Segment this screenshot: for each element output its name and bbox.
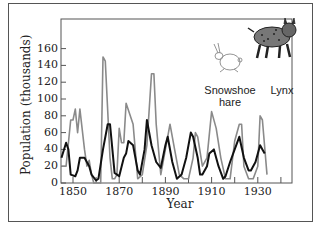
y-tick-label: 60	[32, 126, 58, 139]
y-tick-label: 0	[32, 176, 58, 189]
y-tick-label: 160	[32, 42, 58, 55]
x-axis-label: Year	[160, 197, 200, 211]
y-tick-label: 40	[32, 142, 58, 155]
lynx-icon	[248, 18, 296, 58]
x-tick-label: 1890	[148, 185, 182, 198]
x-tick-label: 1910	[195, 185, 229, 198]
x-tick-label: 1850	[56, 185, 90, 198]
legend-hare-line2: hare	[200, 96, 260, 108]
legend-hare-line1: Snowshoe	[200, 84, 260, 96]
hare-icon	[214, 43, 242, 72]
y-tick-label: 80	[32, 109, 58, 122]
y-tick-label: 120	[32, 75, 58, 88]
hare-series-line	[62, 57, 268, 183]
y-axis-label: Population (thousands)	[19, 55, 33, 175]
x-tick-label: 1870	[102, 185, 136, 198]
y-tick-label: 100	[32, 92, 58, 105]
y-axis-ticks	[61, 49, 66, 183]
legend-lynx: Lynx	[262, 84, 302, 96]
y-tick-label: 140	[32, 58, 58, 71]
lynx-series-line	[62, 120, 265, 181]
x-tick-label: 1930	[241, 185, 275, 198]
legend-hare: Snowshoe hare	[200, 84, 260, 108]
y-tick-label: 20	[32, 159, 58, 172]
